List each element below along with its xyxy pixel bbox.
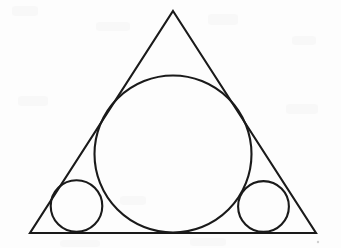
geometry-diagram xyxy=(0,0,341,248)
scan-speck xyxy=(317,241,319,243)
figure-canvas xyxy=(0,0,341,248)
